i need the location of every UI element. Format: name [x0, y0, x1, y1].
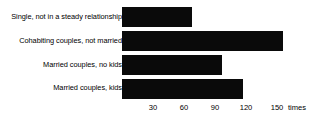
category-label-1: Cohabiting couples, not married [0, 36, 122, 45]
bar-married-couples-kids [122, 79, 243, 99]
x-axis-tick-30: 30 [141, 103, 165, 113]
bar-married-couples-no-kids [122, 55, 222, 75]
bar-cohabiting-couples-not-married [122, 31, 283, 51]
x-axis-tick-120: 120 [234, 103, 258, 113]
x-axis-unit-label: times [288, 103, 306, 113]
category-label-3: Married couples, kids [0, 83, 122, 92]
x-axis-tick-90: 90 [203, 103, 227, 113]
x-axis-tick-60: 60 [172, 103, 196, 113]
category-label-0: Single, not in a steady relationship [0, 12, 122, 21]
x-axis-tick-150: 150 [265, 103, 289, 113]
bar-single-not-in-steady-relationship [122, 7, 192, 27]
category-label-2: Married couples, no kids [0, 60, 122, 69]
bar-chart: Single, not in a steady relationship Coh… [0, 0, 320, 118]
